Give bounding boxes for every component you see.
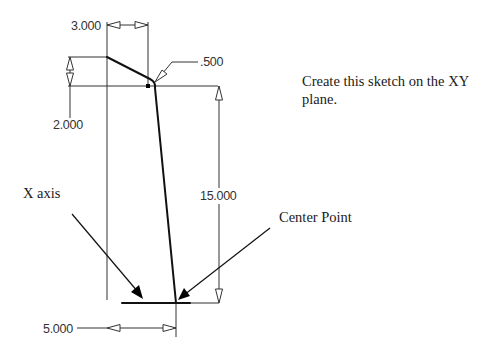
arrowhead-left-icon (107, 22, 120, 29)
dimension-label-3000: 3.000 (71, 19, 101, 33)
callout-arrowhead-icon (131, 285, 143, 299)
callout-arrow-line (72, 214, 138, 292)
dimension-label-2000: 2.000 (53, 118, 83, 132)
dimension-radius: .500 (155, 55, 223, 82)
sketch-drawing: 3.000 2.000 .500 15.000 (0, 0, 484, 358)
arc-center-point (146, 84, 150, 88)
arrowhead-down-icon (67, 73, 74, 86)
callout-arrow-line (184, 228, 270, 295)
dimension-2000: 2.000 (53, 57, 218, 132)
dimension-5000: 5.000 (43, 303, 176, 337)
sketch-geometry (107, 57, 190, 303)
arrowhead-bottom-icon (216, 289, 223, 303)
sketch-profile (107, 57, 176, 303)
callout-arrowhead-icon (178, 288, 190, 300)
dimension-label-5000: 5.000 (43, 322, 73, 336)
arrowhead-up-icon (67, 57, 74, 70)
arrowhead-right-icon (135, 22, 148, 29)
callout-center-point: Center Point (178, 209, 352, 300)
arrowhead-top-icon (216, 86, 223, 100)
callout-label-center-point: Center Point (279, 209, 352, 225)
instruction-text: Create this sketch on the XY plane. (302, 72, 482, 108)
radius-arrowhead-icon (155, 70, 167, 82)
arrowhead-left-icon (107, 325, 120, 332)
arrowhead-right-icon (163, 325, 176, 332)
callout-x-axis: X axis (23, 185, 143, 299)
dimension-label-15000: 15.000 (200, 189, 237, 203)
callout-label-x-axis: X axis (23, 185, 61, 201)
dimension-label-radius: .500 (200, 55, 223, 69)
